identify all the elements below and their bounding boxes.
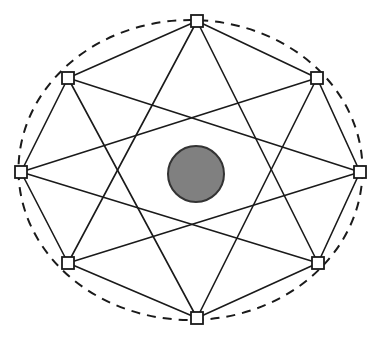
node-marker-right[interactable] (354, 166, 366, 178)
node-marker-lower-left[interactable] (62, 257, 74, 269)
diagram-root (0, 0, 381, 340)
node-marker-top[interactable] (191, 15, 203, 27)
node-marker-left[interactable] (15, 166, 27, 178)
node-marker-upper-right[interactable] (311, 72, 323, 84)
octagon-network-figure (0, 0, 381, 340)
center-disc (168, 146, 224, 202)
node-marker-bottom[interactable] (191, 312, 203, 324)
node-marker-upper-left[interactable] (62, 72, 74, 84)
node-marker-lower-right[interactable] (312, 257, 324, 269)
